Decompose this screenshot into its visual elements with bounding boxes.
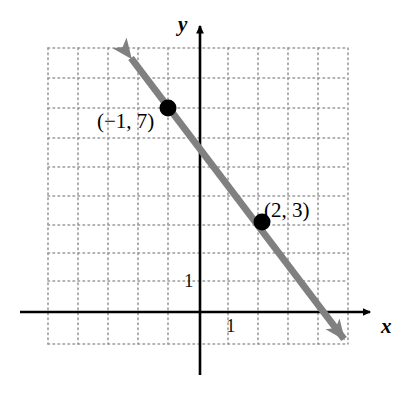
y-axis-label: y (178, 14, 187, 35)
point-label-a: (−1, 7) (97, 111, 154, 132)
grid-lines (48, 48, 348, 344)
y-axis-tick-label-1: 1 (184, 271, 194, 290)
plot-canvas (0, 0, 412, 401)
point-label-b: (2, 3) (264, 200, 310, 221)
data-point-a (160, 100, 177, 117)
coordinate-plane-figure: y x 1 1 (−1, 7) (2, 3) (0, 0, 412, 401)
x-axis-label: x (381, 316, 392, 337)
x-axis-tick-label-1: 1 (226, 316, 236, 335)
graph-line (131, 58, 344, 339)
